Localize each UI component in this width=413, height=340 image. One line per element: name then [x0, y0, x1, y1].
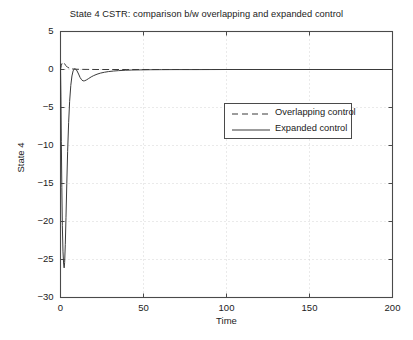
plot-canvas — [0, 0, 413, 340]
chart-figure: State 4 CSTR: comparison b/w overlapping… — [0, 0, 413, 340]
x-tick-label: 100 — [212, 302, 242, 313]
legend-item-expanded-control: Expanded control — [225, 122, 353, 137]
y-tick-label: −20 — [28, 215, 54, 226]
series-expanded-control — [61, 65, 393, 268]
y-tick-label: −10 — [28, 139, 54, 150]
y-tick-label: 0 — [28, 63, 54, 74]
y-tick-label: 5 — [28, 25, 54, 36]
y-axis-label: State 4 — [15, 123, 26, 193]
y-tick-label: −5 — [28, 101, 54, 112]
y-tick-label: −30 — [28, 291, 54, 302]
x-tick-label: 200 — [378, 302, 408, 313]
x-axis-label: Time — [60, 315, 393, 326]
y-tick-label: −15 — [28, 177, 54, 188]
x-tick-label: 50 — [129, 302, 159, 313]
legend-label-overlapping-control: Overlapping control — [275, 107, 356, 117]
y-tick-label: −25 — [28, 253, 54, 264]
x-tick-label: 0 — [46, 302, 76, 313]
legend-swatch-solid — [231, 122, 271, 137]
legend-swatch-dashed — [231, 106, 271, 121]
legend-item-overlapping-control: Overlapping control — [225, 106, 353, 121]
x-tick-label: 150 — [295, 302, 325, 313]
chart-legend: Overlapping control Expanded control — [224, 103, 352, 139]
legend-label-expanded-control: Expanded control — [275, 123, 347, 133]
